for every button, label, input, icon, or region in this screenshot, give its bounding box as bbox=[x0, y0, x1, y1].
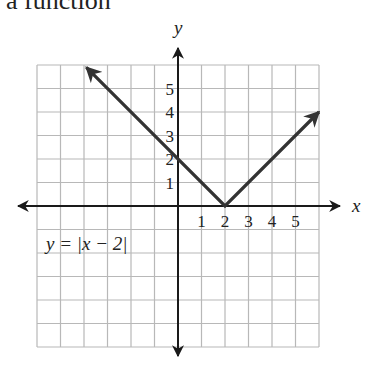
svg-text:4: 4 bbox=[166, 103, 175, 122]
y-tick-labels: 12345 bbox=[166, 80, 175, 193]
svg-text:1: 1 bbox=[197, 212, 206, 231]
svg-text:3: 3 bbox=[166, 127, 175, 146]
svg-text:1: 1 bbox=[166, 174, 175, 193]
svg-text:5: 5 bbox=[291, 212, 300, 231]
x-tick-labels: 12345 bbox=[197, 212, 300, 231]
x-axis-label: x bbox=[351, 195, 361, 216]
svg-text:4: 4 bbox=[268, 212, 277, 231]
svg-text:2: 2 bbox=[221, 212, 230, 231]
y-axis-label: y bbox=[172, 17, 183, 38]
svg-text:5: 5 bbox=[166, 80, 175, 99]
graph: x y 12345 12345 y = |x − 2| bbox=[0, 0, 379, 370]
svg-text:3: 3 bbox=[244, 212, 253, 231]
equation-label: y = |x − 2| bbox=[44, 233, 127, 254]
